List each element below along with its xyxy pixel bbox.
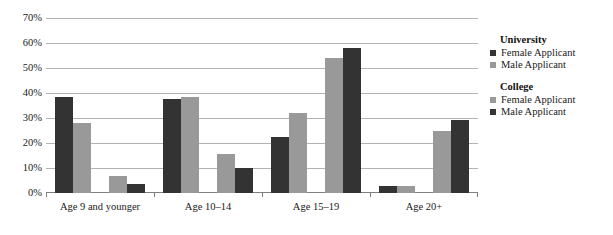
- x-tick: [46, 193, 47, 197]
- plot-area: [46, 18, 478, 193]
- legend-label-university-female: Female Applicant: [501, 47, 575, 59]
- legend-swatch-icon: [490, 109, 496, 115]
- x-tick: [370, 193, 371, 197]
- legend-swatch-icon: [490, 97, 496, 103]
- y-tick-label-10: 10%: [2, 163, 42, 173]
- legend-label-university-male: Male Applicant: [501, 59, 566, 71]
- legend-item-college-male: Male Applicant: [500, 106, 613, 118]
- bar-group-age-9-and-younger: [46, 18, 154, 193]
- y-tick-label-70: 70%: [2, 13, 42, 23]
- bar-coll-male-0: [127, 184, 145, 193]
- bar-univ-male-1: [181, 97, 199, 193]
- x-tick: [477, 193, 478, 197]
- bar-coll-female-2: [325, 58, 343, 193]
- legend-label-college-male: Male Applicant: [501, 106, 566, 118]
- legend-title-college: College: [500, 80, 613, 93]
- y-tick-label-0: 0%: [2, 188, 42, 198]
- bar-groups: [46, 18, 478, 193]
- bar-univ-female-2: [271, 137, 289, 193]
- x-label-0: Age 9 and younger: [46, 200, 154, 213]
- y-tick-label-60: 60%: [2, 38, 42, 48]
- bar-univ-female-0: [55, 97, 73, 193]
- bar-univ-male-2: [289, 113, 307, 193]
- y-tick-label-20: 20%: [2, 138, 42, 148]
- legend-label-college-female: Female Applicant: [501, 94, 575, 106]
- chart-legend: University Female Applicant Male Applica…: [500, 33, 613, 127]
- bar-univ-female-1: [163, 99, 181, 193]
- y-tick-label-40: 40%: [2, 88, 42, 98]
- bar-group-age-10-14: [154, 18, 262, 193]
- legend-item-college-female: Female Applicant: [500, 94, 613, 106]
- y-tick-label-30: 30%: [2, 113, 42, 123]
- bar-univ-female-3: [379, 186, 397, 193]
- bar-coll-male-1: [235, 168, 253, 193]
- legend-swatch-icon: [490, 50, 496, 56]
- x-label-1: Age 10–14: [154, 200, 262, 213]
- x-tick: [262, 193, 263, 197]
- bar-coll-female-1: [217, 154, 235, 193]
- legend-item-university-female: Female Applicant: [500, 47, 613, 59]
- legend-title-university: University: [500, 33, 613, 46]
- bar-group-age-15-19: [262, 18, 370, 193]
- x-axis-labels: Age 9 and younger Age 10–14 Age 15–19 Ag…: [46, 200, 478, 213]
- bar-coll-female-3: [433, 131, 451, 193]
- y-tick-label-50: 50%: [2, 63, 42, 73]
- legend-swatch-icon: [490, 62, 496, 68]
- x-tick: [154, 193, 155, 197]
- bar-group-age-20-plus: [370, 18, 478, 193]
- bar-coll-male-2: [343, 48, 361, 193]
- grouped-bar-chart: 70% 60% 50% 40% 30% 20% 10% 0%: [0, 0, 613, 235]
- legend-item-university-male: Male Applicant: [500, 59, 613, 71]
- bar-coll-female-0: [109, 176, 127, 193]
- bar-univ-male-3: [397, 186, 415, 193]
- bar-univ-male-0: [73, 123, 91, 193]
- bar-coll-male-3: [451, 120, 469, 193]
- x-label-2: Age 15–19: [262, 200, 370, 213]
- y-axis: 70% 60% 50% 40% 30% 20% 10% 0%: [0, 0, 42, 235]
- x-label-3: Age 20+: [370, 200, 478, 213]
- legend-block-college: College Female Applicant Male Applicant: [500, 80, 613, 118]
- legend-block-university: University Female Applicant Male Applica…: [500, 33, 613, 71]
